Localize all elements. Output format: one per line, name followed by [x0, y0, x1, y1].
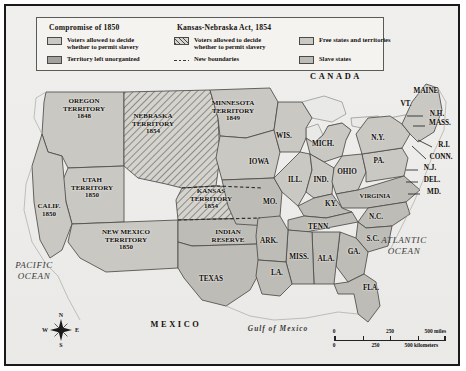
legend-label: Free states and territories: [319, 36, 391, 43]
legend-swatch-solid-free: [299, 37, 314, 45]
legend-group-title-kansas-nebraska: Kansas-Nebraska Act, 1854: [177, 23, 271, 32]
territory-label-oregon-territory: OREGONTERRITORY1848: [63, 98, 105, 121]
scale-bar-miles: [334, 336, 446, 341]
legend-label-line2: whether to permit slavery: [194, 43, 266, 50]
legend-label: Voters allowed to decide whether to perm…: [194, 36, 266, 51]
state-label-ind: IND.: [314, 177, 329, 185]
state-label-iowa: IOWA: [249, 159, 269, 167]
state-label-miss: MISS.: [289, 254, 308, 262]
state-label-wis: WIS.: [276, 133, 292, 141]
state-label-pa: PA.: [374, 158, 385, 166]
state-label-fla: FLA.: [363, 285, 379, 293]
territory-label-indian-reserve: INDIANRESERVE: [212, 229, 245, 244]
state-label-vt: VT.: [400, 101, 411, 109]
legend-swatch-dashed-line: [174, 56, 189, 64]
country-label-mexico: MEXICO: [151, 320, 202, 329]
legend-item-free-states: Free states and territories: [299, 36, 391, 45]
legend-item-slave-states: Slave states: [299, 55, 351, 64]
ocean-label-atlantic-ocean: ATLANTICOCEAN: [381, 235, 426, 257]
state-label-n-c: N.C.: [369, 214, 383, 222]
legend-group-title-compromise: Compromise of 1850: [49, 23, 120, 32]
ocean-label-pacific-ocean: PACIFICOCEAN: [15, 260, 53, 282]
map-legend: Compromise of 1850 Kansas-Nebraska Act, …: [36, 17, 384, 71]
map-scale-bars: 0 250 500 miles 0 250 500 kilometers: [334, 328, 446, 350]
region-nebraska-territory: [124, 90, 220, 188]
territory-label-kansas-territory: KANSASTERRITORY1854: [190, 188, 232, 211]
scale-tick: 250: [386, 328, 394, 334]
territory-label-new-mexico-territory: NEW MEXICOTERRITORY1850: [102, 229, 150, 252]
state-label-la: LA.: [271, 270, 283, 278]
legend-label-line1: Voters allowed to decide: [194, 36, 261, 43]
country-label-canada: CANADA: [310, 72, 362, 81]
scale-km-labels: 0 250 500 kilometers: [334, 342, 446, 350]
state-label-ohio: OHIO: [337, 169, 357, 177]
compass-east-label: E: [75, 327, 79, 333]
state-label-n-y: N.Y.: [371, 135, 384, 143]
compass-rose: N S W E: [42, 310, 80, 348]
scale-miles-labels: 0 250 500 miles: [334, 328, 446, 336]
state-label-mich: MICH.: [312, 141, 334, 149]
compass-west-label: W: [42, 327, 48, 333]
state-label-mass: MASS.: [429, 120, 451, 128]
state-label-md: MD.: [427, 189, 441, 197]
scale-tick: 250: [371, 342, 379, 348]
gulf-of-mexico-label: Gulf of Mexico: [248, 324, 308, 333]
legend-swatch-solid-dark: [47, 56, 62, 64]
compass-south-label: S: [59, 342, 63, 348]
state-label-tenn: TENN.: [308, 224, 330, 232]
legend-item-new-boundaries: New boundaries: [174, 55, 239, 64]
territory-label-nebraska-territory: NEBRASKATERRITORY1854: [132, 113, 174, 136]
legend-item-popular-sovereignty-1850: Voters allowed to decide whether to perm…: [47, 36, 139, 51]
territory-label-minnesota-territory: MINNESOTATERRITORY1849: [212, 100, 255, 123]
legend-swatch-hatched: [174, 37, 189, 45]
state-label-r-i: R.I.: [438, 142, 450, 150]
region-iowa: [216, 130, 280, 180]
scale-tick: 500 kilometers: [405, 342, 439, 348]
state-label-ark: ARK.: [260, 238, 278, 246]
state-label-mo: MO.: [263, 199, 277, 207]
territory-label-calif: CALIF.1850: [38, 203, 61, 218]
legend-label-line2: whether to permit slavery: [67, 43, 139, 50]
state-label-conn: CONN.: [430, 154, 453, 162]
scale-tick: 0: [333, 328, 336, 334]
state-label-del: DEL.: [424, 177, 441, 185]
territory-label-utah-territory: UTAHTERRITORY1850: [71, 177, 113, 200]
state-label-ill: ILL.: [288, 177, 302, 185]
legend-swatch-solid-slave: [299, 56, 314, 64]
state-label-ala: ALA.: [318, 256, 335, 264]
legend-label: New boundaries: [194, 55, 239, 62]
compass-north-label: N: [59, 312, 64, 318]
scale-tick: 0: [333, 342, 336, 348]
state-label-n-j: N.J.: [424, 165, 436, 173]
legend-label: Territory left unorganized: [67, 55, 140, 62]
legend-swatch-solid-light: [47, 37, 62, 45]
legend-label: Voters allowed to decide whether to perm…: [67, 36, 139, 51]
legend-item-unorganized-territory: Territory left unorganized: [47, 55, 140, 64]
state-label-maine: MAINE: [414, 88, 439, 96]
state-label-s-c: S.C.: [367, 236, 380, 244]
scale-tick: 500 miles: [425, 328, 446, 334]
state-label-ky: KY.: [325, 201, 337, 209]
map-frame: Compromise of 1850 Kansas-Nebraska Act, …: [4, 4, 460, 366]
legend-item-popular-sovereignty-1854: Voters allowed to decide whether to perm…: [174, 36, 266, 51]
state-label-n-h: N.H.: [430, 111, 444, 119]
state-label-ga: GA.: [348, 249, 361, 257]
legend-label: Slave states: [319, 55, 351, 62]
state-label-virginia: VIRGINIA: [360, 192, 391, 200]
state-label-texas: TEXAS: [199, 276, 223, 284]
legend-label-line1: Voters allowed to decide: [67, 36, 134, 43]
